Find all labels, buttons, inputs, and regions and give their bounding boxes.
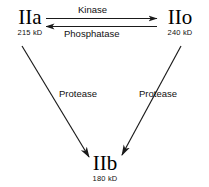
node-iio: IIo 240 kD [154,6,206,38]
edge-label-phosphatase: Phosphatase [64,28,119,39]
node-iia: IIa 215 kD [4,6,56,38]
arrow-protease-left [22,46,89,157]
edge-label-protease-left: Protease [59,88,97,99]
node-iio-label: IIo [154,6,206,28]
arrow-protease-right [122,46,181,155]
node-iio-mass: 240 kD [154,28,206,38]
edge-label-protease-right: Protease [139,88,177,99]
node-iia-label: IIa [4,6,56,28]
node-iib-mass: 180 kD [79,174,131,184]
node-iib-label: IIb [79,152,131,174]
node-iib: IIb 180 kD [79,152,131,184]
node-iia-mass: 215 kD [4,28,56,38]
edge-label-kinase: Kinase [78,4,107,15]
reaction-scheme-diagram: IIa 215 kD IIo 240 kD IIb 180 kD Kinase … [0,0,209,187]
